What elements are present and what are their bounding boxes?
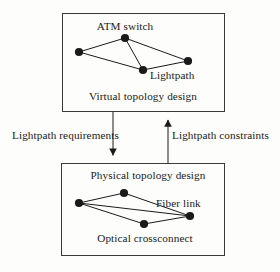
lightpath-label: Lightpath: [150, 70, 194, 81]
fiber-edge-left-bottom: [79, 203, 144, 224]
lightpath-constraints-label: Lightpath constraints: [172, 130, 269, 141]
edge-top-right: [125, 38, 188, 61]
network-layering-diagram: ATM switch Lightpath Virtual topology de…: [0, 0, 280, 272]
atm-switch-label: ATM switch: [97, 21, 154, 32]
oxc-node-bottom: [140, 220, 148, 228]
lightpath-requirements-label: Lightpath requirements: [12, 130, 119, 141]
fiber-edge-left-top: [79, 193, 124, 203]
atm-switch-node-right: [184, 57, 192, 65]
optical-crossconnect-label: Optical crossconnect: [97, 233, 193, 244]
oxc-node-right: [186, 212, 194, 220]
fiber-link-label: Fiber link: [156, 198, 201, 209]
edge-left-top: [79, 38, 125, 52]
physical-topology-caption: Physical topology design: [91, 170, 206, 181]
atm-switch-node-left: [75, 48, 83, 56]
oxc-node-left: [75, 199, 83, 207]
edge-left-bottom: [79, 52, 143, 70]
oxc-node-top: [120, 189, 128, 197]
fiber-edge-bottom-right: [144, 216, 190, 224]
virtual-topology-caption: Virtual topology design: [89, 91, 197, 102]
atm-switch-node-top: [121, 34, 129, 42]
atm-switch-node-bottom: [139, 66, 147, 74]
virtual-topology-edges: [79, 38, 188, 70]
